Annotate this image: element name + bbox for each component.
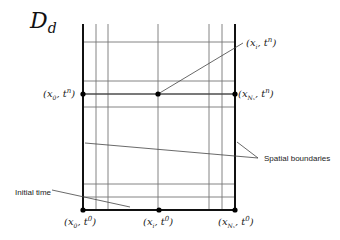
grid-point-x0-t0 [80,207,85,212]
pointer-initial-time [52,190,130,207]
label-xi-t0: (xi, t0) [143,215,173,229]
title-main: D [30,8,48,33]
spatial-boundaries-label: Spatial boundaries [264,154,330,163]
grid-point-xNx-tn [232,91,237,96]
grid-point-xi-tn [155,91,160,96]
grid-point-x0-tn [80,91,85,96]
label-xi-tn: (xi, tn) [246,36,276,50]
label-xNx-tn: (xNₓ, tn) [238,87,274,101]
pointer-right-boundary [237,142,258,158]
domain-title: Dd [30,8,57,36]
pointer-xi-tn [158,43,243,94]
grid-point-xi-t0 [156,207,161,212]
label-xNx-t0: (xNₓ, t0) [218,215,254,229]
label-x0-tn: (x0, tn) [43,87,75,101]
initial-time-label: Initial time [15,188,51,197]
title-sub: d [48,20,57,36]
grid-point-xNx-t0 [232,207,237,212]
pointer-left-boundary [85,143,258,158]
label-x0-t0: (x0, t0) [64,215,96,229]
diagram-canvas: Dd (xi, tn) (x0, tn) (xNₓ, tn) (x0, t0) … [0,0,340,240]
